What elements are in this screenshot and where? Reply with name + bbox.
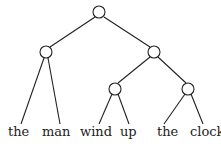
edge-root-left [50,17,95,47]
leaf-word: wind [80,124,112,140]
edge-right-rr [158,57,186,83]
node-right-left [109,83,121,95]
leaf-word: up [120,124,137,140]
node-left [40,46,52,58]
edge-rr-clock [191,94,203,124]
edge-rl-wind [99,94,112,124]
leaf-word: clock [190,124,221,140]
leaf-word: the [157,124,178,140]
leaf-word: man [42,124,70,140]
leaf-word: the [8,124,29,140]
edge-left-man [48,58,60,124]
edge-left-the [21,58,44,124]
edge-right-rl [118,57,150,83]
edge-root-right [104,17,150,47]
node-right-right [182,83,194,95]
edge-rl-up [118,94,129,124]
node-root [93,6,105,18]
node-right [148,46,160,58]
edge-rr-the [164,94,185,124]
